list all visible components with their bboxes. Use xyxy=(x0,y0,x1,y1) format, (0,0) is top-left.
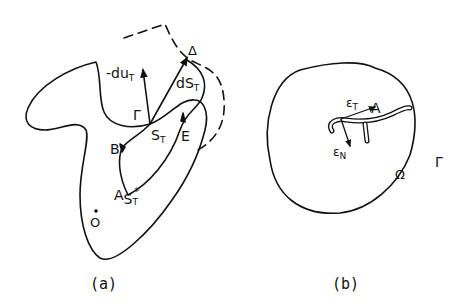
label-A-b: A xyxy=(371,101,381,115)
label-A-S-star: AST* xyxy=(114,188,138,202)
label-gamma-a: Γ xyxy=(133,108,141,122)
label-E: E xyxy=(181,129,190,143)
label-S: ST xyxy=(151,128,165,142)
label-neg-du: -duT xyxy=(106,66,134,80)
label-eps-T: εT xyxy=(346,97,358,109)
caption-a: (a) xyxy=(90,277,117,292)
dS-arrow xyxy=(150,58,187,124)
outer-boundary-curve xyxy=(26,62,207,259)
caption-b: (b) xyxy=(332,277,359,292)
E-arrowhead xyxy=(181,113,185,122)
label-eps-N: εN xyxy=(333,146,346,158)
domain-boundary-curve xyxy=(267,63,415,213)
eps-N-arrow xyxy=(341,119,350,146)
label-omega: Ω xyxy=(395,168,405,181)
neg-du-arrow xyxy=(143,70,150,124)
label-delta: Δ xyxy=(188,44,197,57)
diagram-canvas xyxy=(0,0,462,308)
label-dS: dST xyxy=(176,76,199,90)
figure: -duT dST Δ Γ ST E B AST* O (a) εT A εN Ω… xyxy=(0,0,462,308)
label-origin: O xyxy=(90,216,100,229)
origin-dot xyxy=(94,209,98,213)
dashed-boundary-curve xyxy=(124,24,224,150)
label-B: B xyxy=(110,142,120,156)
label-gamma-b: Γ xyxy=(435,155,443,169)
